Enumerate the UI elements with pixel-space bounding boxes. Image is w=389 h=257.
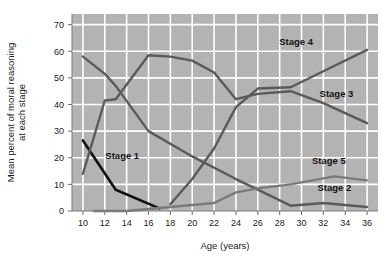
y-axis-title: Mean percent of moral reasoningat each s…: [5, 43, 27, 182]
x-tick-label: 30: [296, 218, 306, 228]
series-label-stage-3: Stage 3: [320, 88, 354, 99]
x-tick-label: 28: [275, 218, 285, 228]
series-label-stage-4: Stage 4: [279, 36, 314, 47]
series-label-stage-5: Stage 5: [312, 155, 347, 166]
x-tick-label: 20: [187, 218, 197, 228]
y-tick-label: 60: [54, 47, 64, 57]
x-tick-label: 22: [209, 218, 219, 228]
y-tick-label: 0: [59, 206, 64, 216]
x-tick-label: 18: [165, 218, 175, 228]
y-tick-label: 50: [54, 73, 64, 83]
y-axis-title-line-1: Mean percent of moral reasoning: [5, 43, 16, 182]
y-tick-label: 40: [54, 100, 64, 110]
x-tick-label: 12: [100, 218, 110, 228]
y-tick-label: 20: [54, 153, 64, 163]
chart-canvas: 0102030405060701012141618202224262830323…: [0, 0, 389, 257]
x-tick-label: 14: [122, 218, 132, 228]
x-tick-label: 26: [253, 218, 263, 228]
y-tick-label: 70: [54, 20, 64, 30]
x-tick-label: 24: [231, 218, 241, 228]
x-tick-label: 16: [143, 218, 153, 228]
moral-reasoning-line-chart: 0102030405060701012141618202224262830323…: [0, 0, 389, 257]
x-tick-label: 10: [78, 218, 88, 228]
y-tick-label: 30: [54, 126, 64, 136]
x-tick-label: 32: [318, 218, 328, 228]
series-label-stage-1: Stage 1: [105, 150, 140, 161]
x-axis-title: Age (years): [200, 240, 249, 251]
y-tick-label: 10: [54, 180, 64, 190]
series-label-stage-2: Stage 2: [317, 182, 351, 193]
x-tick-label: 34: [340, 218, 350, 228]
y-axis-title-line-2: at each stage: [16, 84, 27, 141]
x-tick-label: 36: [362, 218, 372, 228]
